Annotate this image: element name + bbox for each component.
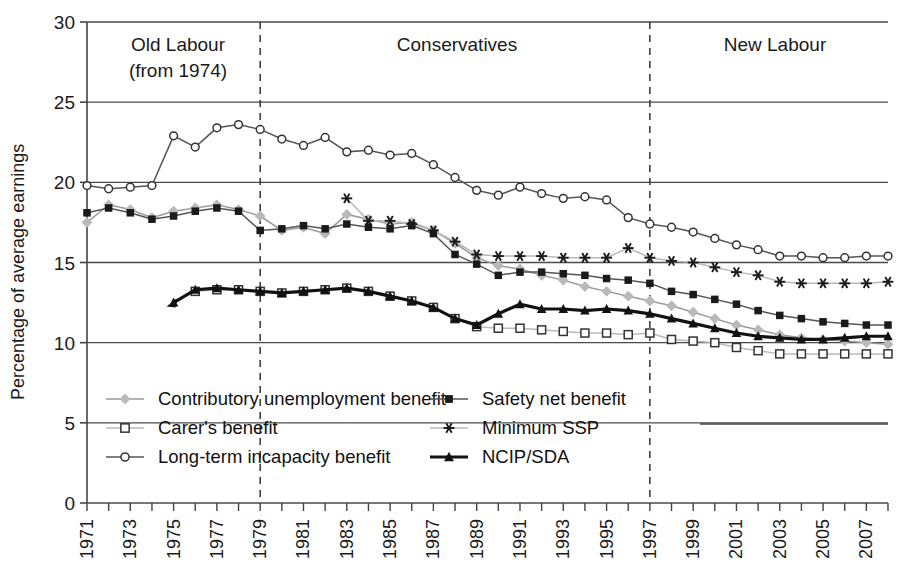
legend-item-safety-net-benefit[interactable]: Safety net benefit <box>430 388 626 409</box>
y-tick-label: 0 <box>64 493 75 514</box>
data-point-square-open <box>624 331 632 339</box>
data-point-circle-open <box>148 182 156 190</box>
data-point-circle-open <box>733 241 741 249</box>
data-point-circle-open <box>256 126 264 134</box>
data-point-circle-open <box>559 194 567 202</box>
data-point-square-filled <box>884 321 892 329</box>
data-point-square-filled <box>386 225 394 233</box>
data-point-square-filled <box>754 307 762 315</box>
data-point-square-filled <box>733 300 741 308</box>
data-point-circle-open <box>603 196 611 204</box>
data-point-asterisk <box>709 263 720 272</box>
data-point-diamond <box>883 339 894 350</box>
series-line <box>87 125 888 258</box>
series-line <box>87 205 888 344</box>
x-tick-label: 2001 <box>726 519 746 559</box>
data-point-square-filled <box>473 260 481 268</box>
data-point-square-filled <box>191 207 199 215</box>
y-tick-label: 25 <box>54 92 75 113</box>
data-point-square-filled <box>365 223 373 231</box>
data-point-square-filled <box>516 268 524 276</box>
data-point-asterisk <box>666 256 677 265</box>
x-tick-label: 2007 <box>856 519 876 559</box>
x-tick-label: 1973 <box>120 519 140 559</box>
data-point-square-filled <box>235 207 243 215</box>
x-tick-label: 2005 <box>813 519 833 559</box>
series-safety-net-benefit <box>83 204 892 329</box>
legend-item-minimum-ssp[interactable]: Minimum SSP <box>430 417 599 438</box>
data-point-square-open <box>862 350 870 358</box>
data-point-square-filled <box>668 288 676 296</box>
data-point-asterisk <box>579 253 590 262</box>
data-point-circle-open <box>819 254 827 262</box>
data-point-diamond <box>709 313 720 324</box>
era-label-old-labour-line1: Old Labour <box>131 34 226 55</box>
y-tick-label: 20 <box>54 172 75 193</box>
data-point-square-filled <box>603 275 611 283</box>
era-label-old-labour-line2: (from 1974) <box>129 60 227 81</box>
data-point-square-open <box>819 350 827 358</box>
data-point-diamond <box>688 307 699 318</box>
y-tick-label: 15 <box>54 253 75 274</box>
data-point-square-filled <box>127 209 135 217</box>
data-point-asterisk <box>688 258 699 267</box>
data-point-square-filled <box>430 230 438 238</box>
data-point-asterisk <box>515 251 526 260</box>
data-point-square-open <box>494 324 502 332</box>
data-point-circle-open <box>862 252 870 260</box>
chart-root: Percentage of average earnings 051015202… <box>0 0 907 572</box>
data-point-square-filled <box>581 272 589 280</box>
x-tick-label: 1979 <box>250 519 270 559</box>
data-point-asterisk <box>839 279 850 288</box>
data-point-circle-open <box>278 135 286 143</box>
data-point-square-filled <box>213 204 221 212</box>
data-point-asterisk <box>493 251 504 260</box>
data-point-circle-open <box>105 185 113 193</box>
legend-item-ncip-sda[interactable]: NCIP/SDA <box>430 446 570 467</box>
data-series-layer <box>82 121 894 358</box>
data-point-circle-open <box>776 252 784 260</box>
data-point-asterisk <box>818 279 829 288</box>
data-point-square-filled <box>689 291 697 299</box>
data-point-circle-open <box>538 190 546 198</box>
legend-item-carer-s-benefit[interactable]: Carer's benefit <box>106 417 278 438</box>
data-point-asterisk <box>883 277 894 286</box>
series-long-term-incapacity-benefit <box>83 121 892 262</box>
data-point-square-filled <box>538 268 546 276</box>
data-point-diamond <box>623 291 634 302</box>
data-point-circle-open <box>126 183 134 191</box>
data-point-diamond <box>255 211 266 222</box>
data-point-circle-open <box>668 223 676 231</box>
x-tick-label: 1999 <box>683 519 703 559</box>
data-point-square-filled <box>841 320 849 328</box>
data-point-circle-open <box>343 148 351 156</box>
data-point-circle-open <box>581 193 589 201</box>
legend-item-contributory-unemployment-benefit[interactable]: Contributory unemployment benefit <box>106 388 446 409</box>
data-point-asterisk <box>861 279 872 288</box>
data-point-circle-open <box>213 124 221 132</box>
data-point-asterisk <box>774 277 785 286</box>
data-point-square-open <box>754 347 762 355</box>
data-point-square-filled <box>819 318 827 326</box>
legend-item-long-term-incapacity-benefit[interactable]: Long-term incapacity benefit <box>106 446 390 467</box>
benefits-line-chart: Percentage of average earnings 051015202… <box>0 0 907 572</box>
data-point-diamond <box>601 286 612 297</box>
data-point-square-filled <box>278 225 286 233</box>
x-tick-label: 1989 <box>467 519 487 559</box>
data-point-square-filled <box>445 395 453 403</box>
data-point-square-filled <box>863 321 871 329</box>
chart-legend: Contributory unemployment benefitCarer's… <box>106 388 888 467</box>
data-point-circle-open <box>429 161 437 169</box>
series-minimum-ssp <box>341 194 893 288</box>
data-point-circle-open <box>365 146 373 154</box>
x-tick-label: 1975 <box>164 519 184 559</box>
data-point-square-filled <box>321 225 329 233</box>
x-tick-label: 1985 <box>380 519 400 559</box>
data-point-circle-open <box>841 254 849 262</box>
data-point-asterisk <box>558 253 569 262</box>
data-point-circle-open <box>754 246 762 254</box>
data-point-asterisk <box>444 423 455 432</box>
data-point-square-open <box>732 343 740 351</box>
x-tick-label: 1977 <box>207 519 227 559</box>
ncip-sda-start-arrow <box>167 299 177 308</box>
